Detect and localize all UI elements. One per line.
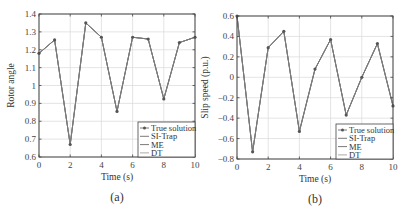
x-tick-label: 0 <box>235 162 240 172</box>
rotor-angle-chart: 02468100.60.70.80.911.11.21.31.4Time (s)… <box>0 0 204 211</box>
x-tick-label: 10 <box>389 162 399 172</box>
panel-caption: (b) <box>308 192 322 206</box>
y-tick-label: −0.6 <box>218 134 235 144</box>
y-axis-label: Slip speed (p.u.) <box>200 56 211 118</box>
data-point-marker <box>329 38 332 41</box>
x-tick-label: 0 <box>37 160 42 170</box>
data-point-marker <box>115 110 118 113</box>
y-tick-label: 0.2 <box>223 52 234 62</box>
legend-item-label: DT <box>151 148 163 158</box>
x-tick-label: 6 <box>130 160 135 170</box>
data-point-marker <box>376 42 379 45</box>
data-point-marker <box>131 36 134 39</box>
y-tick-label: 0.9 <box>25 98 37 108</box>
y-tick-label: 0.7 <box>25 134 37 144</box>
x-axis-label: Time (s) <box>101 172 133 183</box>
x-tick-label: 8 <box>162 160 167 170</box>
legend-item-label: DT <box>349 150 361 160</box>
x-tick-label: 2 <box>266 162 271 172</box>
legend: True solutionSI-TrapMEDT <box>336 124 395 160</box>
panel-caption: (a) <box>110 190 123 204</box>
y-tick-label: 1 <box>32 81 37 91</box>
data-point-marker <box>178 41 181 44</box>
data-point-marker <box>251 150 254 153</box>
slip-speed-chart: 0246810−0.8−0.6−0.4−0.200.20.40.6Time (s… <box>200 0 407 211</box>
data-point-marker <box>162 97 165 100</box>
data-point-marker <box>282 30 285 33</box>
legend: True solutionSI-TrapMEDT <box>138 122 197 158</box>
data-point-marker <box>298 130 301 133</box>
y-axis-label: Rotor angle <box>6 63 16 108</box>
x-tick-label: 2 <box>68 160 73 170</box>
data-point-marker <box>267 46 270 49</box>
data-point-marker <box>84 21 87 24</box>
x-tick-label: 4 <box>99 160 104 170</box>
y-tick-label: 1.4 <box>25 9 37 19</box>
y-tick-label: 0.6 <box>223 11 235 21</box>
y-tick-label: −0.4 <box>218 113 235 123</box>
chart-panel-a: 02468100.60.70.80.911.11.21.31.4Time (s)… <box>0 0 204 211</box>
data-point-marker <box>313 68 316 71</box>
data-point-marker <box>69 143 72 146</box>
x-tick-label: 6 <box>328 162 333 172</box>
x-tick-label: 8 <box>360 162 365 172</box>
x-tick-label: 4 <box>297 162 302 172</box>
x-tick-label: 10 <box>191 160 201 170</box>
y-tick-label: 0 <box>230 72 235 82</box>
y-tick-label: 0.4 <box>223 31 235 41</box>
data-point-marker <box>100 36 103 39</box>
y-tick-label: −0.2 <box>218 93 234 103</box>
y-tick-label: 1.1 <box>25 63 36 73</box>
data-point-marker <box>360 76 363 79</box>
y-tick-label: 1.3 <box>25 27 37 37</box>
data-point-marker <box>345 113 348 116</box>
y-tick-label: 0.8 <box>25 116 37 126</box>
chart-panel-b: 0246810−0.8−0.6−0.4−0.200.20.40.6Time (s… <box>200 0 404 211</box>
x-axis-label: Time (s) <box>299 174 331 185</box>
data-point-marker <box>147 37 150 40</box>
y-tick-label: 0.6 <box>25 152 37 162</box>
data-point-marker <box>53 38 56 41</box>
y-tick-label: −0.8 <box>218 154 235 164</box>
y-tick-label: 1.2 <box>25 45 36 55</box>
